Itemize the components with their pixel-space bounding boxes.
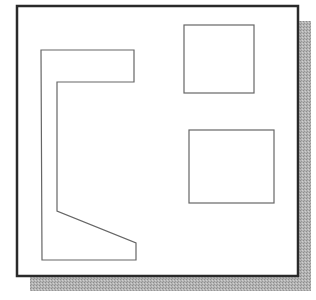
drawing-svg: [0, 0, 316, 300]
diagram-canvas: [0, 0, 316, 300]
outer-frame: [17, 6, 298, 276]
